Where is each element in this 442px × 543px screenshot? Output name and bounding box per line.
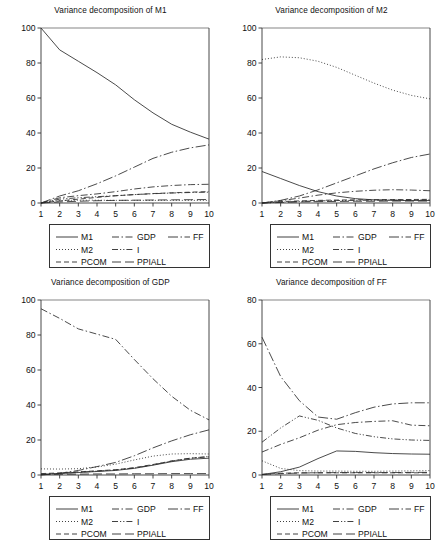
y-tick-label: 60 [26, 93, 36, 103]
x-tick-label: 3 [297, 481, 302, 491]
x-axis-ticks: 12345678910 [39, 475, 214, 491]
y-tick-label: 100 [21, 295, 36, 305]
x-tick-label: 6 [132, 481, 137, 491]
x-tick-label: 7 [151, 481, 156, 491]
chart-legend: M1GDPFFM2IPCOMPPIALL [49, 496, 210, 540]
y-tick-label: 60 [247, 93, 257, 103]
legend-label-ff: FF [193, 504, 204, 514]
legend-label-m2: M2 [81, 517, 93, 527]
series-line-m1 [41, 28, 209, 139]
legend-label-i: I [358, 517, 360, 527]
axis-frame [262, 300, 430, 475]
x-tick-label: 10 [204, 209, 214, 219]
legend-label-ppiall: PPIALL [358, 529, 387, 539]
legend-label-pcom: PCOM [81, 529, 107, 539]
legend-label-m1: M1 [81, 504, 93, 514]
y-tick-label: 20 [26, 163, 36, 173]
series-line-pcom [41, 192, 209, 203]
series-line-ff [262, 337, 430, 419]
y-tick-label: 0 [31, 198, 36, 208]
x-tick-label: 1 [260, 481, 265, 491]
x-tick-label: 9 [188, 481, 193, 491]
series-line-i [262, 416, 430, 442]
x-tick-label: 9 [409, 481, 414, 491]
y-tick-label: 20 [26, 435, 36, 445]
x-tick-label: 7 [372, 209, 377, 219]
series-line-m2 [41, 454, 209, 469]
chart-panel-gdp: Variance decomposition of GDP02040608010… [0, 272, 221, 543]
y-tick-label: 0 [252, 198, 257, 208]
legend-label-ff: FF [193, 232, 204, 242]
x-tick-label: 8 [390, 481, 395, 491]
y-tick-label: 40 [26, 400, 36, 410]
y-tick-label: 40 [247, 128, 257, 138]
legend-label-gdp: GDP [358, 232, 377, 242]
x-axis-ticks: 12345678910 [260, 203, 435, 219]
series-lines [41, 28, 209, 203]
variance-decomposition-figure: Variance decomposition of M1020406080100… [0, 0, 442, 543]
legend-label-ppiall: PPIALL [137, 257, 166, 267]
x-tick-label: 10 [425, 481, 435, 491]
legend-label-m2: M2 [302, 245, 314, 255]
x-tick-label: 5 [113, 481, 118, 491]
legend-label-pcom: PCOM [81, 257, 107, 267]
legend-label-m1: M1 [302, 504, 314, 514]
y-tick-label: 60 [247, 339, 257, 349]
series-line-gdp [262, 421, 430, 452]
series-lines [262, 337, 430, 474]
y-tick-label: 20 [247, 163, 257, 173]
x-tick-label: 4 [316, 481, 321, 491]
x-tick-label: 4 [95, 209, 100, 219]
legend-label-m2: M2 [81, 245, 93, 255]
legend-label-gdp: GDP [358, 504, 377, 514]
y-axis-ticks: 020406080 [247, 295, 262, 480]
x-tick-label: 1 [39, 481, 44, 491]
x-tick-label: 8 [169, 209, 174, 219]
x-tick-label: 3 [297, 209, 302, 219]
y-tick-label: 100 [242, 23, 257, 33]
x-tick-label: 1 [39, 209, 44, 219]
y-tick-label: 80 [26, 58, 36, 68]
x-axis-ticks: 12345678910 [260, 475, 435, 491]
y-tick-label: 60 [26, 365, 36, 375]
x-tick-label: 9 [409, 209, 414, 219]
x-tick-label: 5 [334, 209, 339, 219]
series-line-ff [262, 154, 430, 203]
legend-label-gdp: GDP [137, 504, 156, 514]
x-tick-label: 10 [204, 481, 214, 491]
series-lines [262, 57, 430, 203]
series-line-pcom [262, 473, 430, 475]
x-tick-label: 6 [353, 481, 358, 491]
series-line-gdp [41, 309, 209, 420]
legend-label-i: I [358, 245, 360, 255]
x-tick-label: 2 [57, 209, 62, 219]
x-tick-label: 1 [260, 209, 265, 219]
y-tick-label: 20 [247, 426, 257, 436]
x-tick-label: 10 [425, 209, 435, 219]
x-tick-label: 2 [278, 481, 283, 491]
legend-label-m1: M1 [81, 232, 93, 242]
legend-label-ppiall: PPIALL [137, 529, 166, 539]
x-tick-label: 6 [353, 209, 358, 219]
x-tick-label: 3 [76, 209, 81, 219]
axis-frame [262, 28, 430, 203]
series-line-ppiall [41, 474, 209, 475]
chart-panel-m2: Variance decomposition of M2020406080100… [221, 0, 442, 271]
x-tick-label: 6 [132, 209, 137, 219]
legend-label-gdp: GDP [137, 232, 156, 242]
chart-panel-ff: Variance decomposition of FF020406080123… [221, 272, 442, 543]
legend-label-i: I [137, 245, 139, 255]
x-tick-label: 5 [113, 209, 118, 219]
chart-legend: M1GDPFFM2IPCOMPPIALL [270, 224, 431, 268]
legend-label-ff: FF [414, 504, 425, 514]
series-line-m2 [262, 57, 430, 99]
x-tick-label: 2 [278, 209, 283, 219]
series-line-m1 [262, 172, 430, 201]
legend-label-pcom: PCOM [302, 529, 328, 539]
x-tick-label: 8 [390, 209, 395, 219]
x-tick-label: 4 [95, 481, 100, 491]
legend-label-i: I [137, 517, 139, 527]
y-tick-label: 80 [247, 58, 257, 68]
y-tick-label: 100 [21, 23, 36, 33]
legend-label-pcom: PCOM [302, 257, 328, 267]
